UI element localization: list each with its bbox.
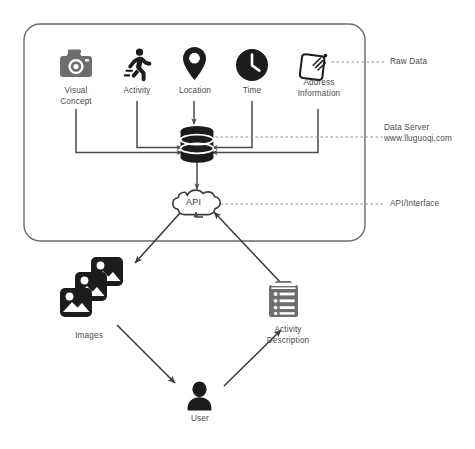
api-label: API [186,197,201,207]
connector-activity-description-to-api [214,212,281,283]
connector-visual-concept [76,109,182,153]
database-cylinder-icon [181,126,214,163]
connector-images-to-user [117,325,175,383]
connector-user-to-activity-description [224,330,281,386]
connector-api-to-images [135,213,180,263]
clipboard-list-icon [269,281,298,317]
map-pin-icon [183,47,206,80]
connector-address-information [212,109,318,153]
image-stack-icon [60,257,123,317]
running-person-icon [125,49,152,82]
tag-icon [289,44,335,90]
clock-icon [236,49,268,81]
camera-icon [60,50,92,77]
connector-time [212,101,252,148]
diagram-canvas: Visual Concept Activity Location Time Ad… [0,0,475,449]
user-person-icon [188,381,212,410]
connector-activity [137,101,182,148]
diagram-vector-layer [0,0,475,449]
